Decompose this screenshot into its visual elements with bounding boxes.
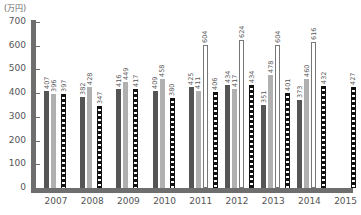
bar-2008-series-black-dashed	[97, 106, 102, 188]
bar-chart: (万円) 0100200300400500600700 407396397382…	[0, 0, 361, 215]
x-tick-label: 2015	[328, 196, 361, 206]
bar-2009-series-dark-gray	[116, 89, 121, 188]
bar-2013-series-white-outline	[275, 45, 280, 188]
bar-value-label: 347	[97, 91, 103, 103]
x-tick-label: 2011	[183, 196, 219, 206]
y-tick-mark	[36, 69, 40, 70]
bar-value-label: 397	[61, 79, 67, 91]
bar-value-label: 417	[133, 75, 139, 87]
x-axis-line	[31, 188, 353, 193]
bar-2009-series-black-dashed	[133, 89, 138, 188]
bar-value-label: 449	[123, 67, 129, 79]
bar-2012-series-dark-gray	[225, 85, 230, 188]
bar-2013-series-dark-gray	[261, 105, 266, 188]
bar-2014-series-light-gray	[304, 79, 309, 188]
bar-value-label: 434	[249, 71, 255, 83]
bar-2012-series-black-dashed	[249, 85, 254, 188]
bar-2008-series-dark-gray	[80, 97, 85, 188]
y-tick-mark	[36, 46, 40, 47]
y-tick-label: 300	[2, 111, 26, 121]
bar-value-label: 616	[311, 27, 317, 39]
y-tick-mark	[36, 22, 40, 23]
bar-2007-series-dark-gray	[44, 91, 49, 188]
bar-2014-series-black-dashed	[321, 86, 326, 188]
bar-value-label: 417	[232, 75, 238, 87]
bar-value-label: 428	[87, 72, 93, 84]
bar-value-label: 604	[202, 30, 208, 42]
bar-value-label: 407	[44, 77, 50, 89]
bar-2013-series-black-dashed	[285, 93, 290, 188]
y-tick-label: 700	[2, 16, 26, 26]
bar-value-label: 351	[261, 90, 267, 102]
bar-2011-series-dark-gray	[189, 87, 194, 188]
bar-2010-series-black-dashed	[170, 98, 175, 188]
bar-value-label: 406	[212, 77, 218, 89]
bar-value-label: 411	[195, 76, 201, 88]
bar-value-label: 478	[268, 60, 274, 72]
bar-2007-series-black-dashed	[61, 94, 66, 188]
bar-2014-series-white-outline	[311, 42, 316, 188]
bar-2007-series-light-gray	[51, 94, 56, 188]
bar-2011-series-white-outline	[203, 45, 208, 188]
y-tick-mark	[36, 164, 40, 165]
y-tick-label: 0	[2, 182, 26, 192]
y-tick-mark	[36, 117, 40, 118]
y-axis-unit-label: (万円)	[4, 2, 26, 13]
bar-value-label: 380	[169, 83, 175, 95]
y-axis-line	[31, 20, 36, 193]
x-tick-label: 2009	[110, 196, 146, 206]
bar-value-label: 458	[159, 65, 165, 77]
y-tick-label: 200	[2, 135, 26, 145]
bar-2009-series-light-gray	[123, 82, 128, 188]
x-tick-label: 2007	[38, 196, 74, 206]
x-tick-label: 2012	[219, 196, 255, 206]
y-tick-mark	[36, 93, 40, 94]
bar-value-label: 396	[51, 80, 57, 92]
bar-value-label: 624	[239, 26, 245, 38]
bar-value-label: 373	[297, 85, 303, 97]
y-tick-label: 600	[2, 40, 26, 50]
bar-2010-series-dark-gray	[153, 91, 158, 188]
bar-value-label: 409	[152, 77, 158, 89]
bar-value-label: 416	[116, 75, 122, 87]
x-tick-label: 2013	[255, 196, 291, 206]
bar-2014-series-dark-gray	[297, 100, 302, 188]
bar-2012-series-light-gray	[232, 89, 237, 188]
bar-value-label: 382	[80, 83, 86, 95]
bar-2010-series-light-gray	[160, 79, 165, 188]
x-tick-label: 2014	[291, 196, 327, 206]
bar-value-label: 460	[304, 64, 310, 76]
bar-value-label: 604	[275, 30, 281, 42]
bar-2008-series-light-gray	[87, 87, 92, 188]
y-tick-label: 100	[2, 158, 26, 168]
bar-value-label: 432	[321, 71, 327, 83]
bar-2012-series-white-outline	[239, 40, 244, 188]
x-tick-label: 2008	[74, 196, 110, 206]
y-tick-mark	[36, 141, 40, 142]
bar-value-label: 434	[225, 71, 231, 83]
bar-value-label: 401	[285, 78, 291, 90]
y-tick-label: 400	[2, 87, 26, 97]
y-tick-label: 500	[2, 63, 26, 73]
bar-2011-series-light-gray	[196, 91, 201, 188]
bar-value-label: 427	[350, 72, 356, 84]
x-tick-label: 2010	[147, 196, 183, 206]
bar-2015-series-black-dashed	[351, 87, 356, 188]
bar-2011-series-black-dashed	[213, 92, 218, 188]
bar-2013-series-light-gray	[268, 75, 273, 188]
